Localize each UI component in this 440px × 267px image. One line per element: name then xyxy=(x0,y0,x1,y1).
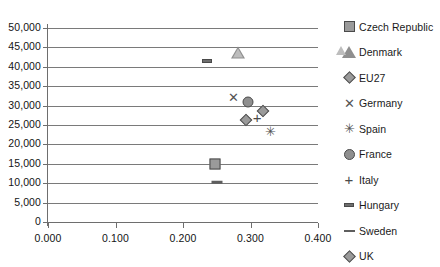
x-axis-tick-label: 0.400 xyxy=(288,232,348,244)
y-axis-tick xyxy=(43,144,48,145)
data-point-sweden[interactable] xyxy=(211,181,222,184)
marker-square-icon xyxy=(344,21,355,32)
marker-plus-icon: + xyxy=(345,172,354,187)
y-axis-tick-label: 5,000 xyxy=(14,196,41,208)
legend-marker: ✳ xyxy=(341,121,357,137)
y-axis-tick xyxy=(43,106,48,107)
legend-marker xyxy=(341,70,357,86)
legend-item-label: France xyxy=(359,148,392,160)
legend-item-hungary[interactable]: Hungary xyxy=(341,193,440,219)
y-axis-tick-label: 0 xyxy=(35,215,41,227)
legend-item-eu27[interactable]: EU27 xyxy=(341,65,440,91)
y-axis-tick-label: 50,000 xyxy=(8,21,41,33)
y-axis-tick-label: 45,000 xyxy=(8,40,41,52)
legend-marker: ✕ xyxy=(341,95,357,111)
chart-legend: Czech RepublicDenmarkEU27✕Germany✳SpainF… xyxy=(341,14,440,267)
y-axis-tick-label: 15,000 xyxy=(8,157,41,169)
x-axis-tick xyxy=(251,223,252,228)
data-point-spain[interactable]: ✳ xyxy=(265,126,276,139)
legend-item-france[interactable]: France xyxy=(341,142,440,168)
legend-item-label: Hungary xyxy=(359,199,399,211)
x-axis-tick xyxy=(318,223,319,228)
gridline-horizontal xyxy=(48,164,318,165)
legend-item-germany[interactable]: ✕Germany xyxy=(341,91,440,117)
legend-item-italy[interactable]: +Italy xyxy=(341,167,440,193)
y-axis-tick xyxy=(43,164,48,165)
data-point-germany[interactable]: ✕ xyxy=(228,91,239,104)
gridline-horizontal xyxy=(48,106,318,107)
gridline-horizontal xyxy=(48,203,318,204)
gridline-horizontal xyxy=(48,67,318,68)
y-axis-tick-label: 30,000 xyxy=(8,99,41,111)
y-axis-tick-label: 20,000 xyxy=(8,137,41,149)
y-axis-tick-label: 40,000 xyxy=(8,60,41,72)
y-axis-tick xyxy=(43,47,48,48)
marker-diamond-icon xyxy=(343,250,356,263)
y-axis-tick xyxy=(43,86,48,87)
x-axis-tick-label: 0.000 xyxy=(18,232,78,244)
legend-item-label: EU27 xyxy=(359,72,385,84)
legend-item-sweden[interactable]: Sweden xyxy=(341,218,440,244)
gridline-horizontal xyxy=(48,183,318,184)
gridline-horizontal xyxy=(48,144,318,145)
legend-item-label: Czech Republic xyxy=(359,21,433,33)
y-axis-tick-labels: 05,00010,00015,00020,00025,00030,00035,0… xyxy=(0,0,41,259)
legend-item-label: Denmark xyxy=(359,46,402,58)
gridline-horizontal xyxy=(48,47,318,48)
marker-triangle-icon xyxy=(342,46,356,58)
data-point-denmark[interactable] xyxy=(231,47,245,59)
legend-marker xyxy=(341,197,357,213)
legend-marker xyxy=(341,248,357,264)
x-axis-tick xyxy=(116,223,117,228)
legend-marker xyxy=(341,44,357,60)
y-axis-tick-label: 35,000 xyxy=(8,79,41,91)
y-axis-tick-label: 25,000 xyxy=(8,118,41,130)
data-point-czech-republic[interactable] xyxy=(210,159,221,170)
legend-item-label: Italy xyxy=(359,174,379,186)
marker-circle-icon xyxy=(344,149,355,160)
marker-dash-icon xyxy=(344,203,354,207)
legend-item-uk[interactable]: UK xyxy=(341,244,440,267)
y-axis-tick xyxy=(43,203,48,204)
marker-x-cross-icon: ✕ xyxy=(344,97,355,110)
legend-marker: + xyxy=(341,172,357,188)
legend-marker xyxy=(341,146,357,162)
y-axis-tick xyxy=(43,183,48,184)
legend-item-czech-republic[interactable]: Czech Republic xyxy=(341,14,440,40)
y-axis-tick xyxy=(43,125,48,126)
legend-marker xyxy=(341,19,357,35)
y-axis-tick xyxy=(43,28,48,29)
gridline-horizontal xyxy=(48,125,318,126)
legend-item-label: UK xyxy=(359,250,374,262)
legend-item-denmark[interactable]: Denmark xyxy=(341,40,440,66)
data-point-france[interactable] xyxy=(243,97,254,108)
legend-item-spain[interactable]: ✳Spain xyxy=(341,116,440,142)
y-axis-tick-label: 10,000 xyxy=(8,176,41,188)
plot-area: ✕✳+ xyxy=(48,28,318,222)
x-axis-tick xyxy=(48,223,49,228)
marker-star-cross-icon: ✳ xyxy=(344,122,355,135)
gridline-horizontal xyxy=(48,86,318,87)
gridline-horizontal xyxy=(48,28,318,29)
x-axis-tick-label: 0.100 xyxy=(86,232,146,244)
legend-item-label: Germany xyxy=(359,97,403,109)
x-axis-tick-label: 0.300 xyxy=(221,232,281,244)
y-axis-tick xyxy=(43,67,48,68)
x-axis-tick-label: 0.200 xyxy=(153,232,213,244)
marker-diamond-icon xyxy=(343,71,356,84)
x-axis-tick xyxy=(183,223,184,228)
legend-item-label: Sweden xyxy=(359,225,397,237)
data-point-hungary[interactable] xyxy=(202,59,212,63)
legend-item-label: Spain xyxy=(359,123,386,135)
